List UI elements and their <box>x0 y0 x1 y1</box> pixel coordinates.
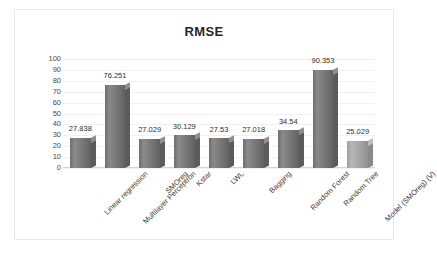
x-axis-tick-label: LWL <box>229 170 245 186</box>
x-axis-tick-label: Linear regression <box>103 170 149 216</box>
bar-value-label: 34.54 <box>270 118 306 126</box>
bar-face <box>174 135 195 168</box>
x-axis-tick-label: Multilayer Perceptron <box>142 170 197 225</box>
y-axis-tick-label: 90 <box>53 66 61 74</box>
bar-value-label: 30.129 <box>166 123 202 131</box>
x-axis: Linear regressionMultilayer PerceptronSM… <box>63 170 375 248</box>
bar-value-label: 27.53 <box>201 126 237 134</box>
y-axis: 1009080706050403020100 <box>35 59 61 168</box>
y-axis-tick-label: 60 <box>53 99 61 107</box>
bar-value-label: 25.029 <box>340 128 376 136</box>
x-axis-tick-label: Bagging <box>268 170 293 195</box>
bar-value-label: 76.251 <box>97 72 133 80</box>
x-axis-tick-label: Kstar <box>195 170 213 188</box>
bar-face <box>70 138 91 168</box>
bar-face <box>139 139 160 168</box>
bar[interactable] <box>209 59 230 168</box>
y-axis-tick-label: 80 <box>53 77 61 85</box>
y-axis-tick-label: 20 <box>53 142 61 150</box>
bar[interactable] <box>278 59 299 168</box>
bar-face <box>105 85 126 168</box>
chart-title: RMSE <box>15 24 393 39</box>
y-axis-tick-label: 0 <box>57 164 61 172</box>
y-axis-tick-label: 30 <box>53 132 61 140</box>
bar-face <box>243 139 264 168</box>
gridline <box>63 168 375 169</box>
bar-value-label: 27.018 <box>236 126 272 134</box>
bar-face <box>278 130 299 168</box>
bar-side-face <box>333 67 338 168</box>
bar-series: 27.83876.25127.02930.12927.5327.01834.54… <box>63 59 375 168</box>
y-axis-tick-label: 50 <box>53 110 61 118</box>
bar-value-label: 90.353 <box>305 57 341 65</box>
bar-face <box>313 70 334 168</box>
y-axis-tick-label: 10 <box>53 153 61 161</box>
bar-value-label: 27.838 <box>62 125 98 133</box>
bar[interactable] <box>347 59 368 168</box>
bar-face <box>209 138 230 168</box>
bar[interactable] <box>174 59 195 168</box>
y-axis-tick-label: 40 <box>53 121 61 129</box>
bar[interactable] <box>70 59 91 168</box>
bar[interactable] <box>313 59 334 168</box>
bar[interactable] <box>243 59 264 168</box>
bar[interactable] <box>139 59 160 168</box>
bar-side-face <box>125 82 130 168</box>
x-axis-tick-label: Model (SMOreg) (V) <box>383 170 436 223</box>
chart-frame: RMSE 1009080706050403020100 27.83876.251… <box>14 9 394 240</box>
y-axis-tick-label: 70 <box>53 88 61 96</box>
plot-area: 27.83876.25127.02930.12927.5327.01834.54… <box>63 59 375 168</box>
y-axis-tick-label: 100 <box>48 55 61 63</box>
bar-value-label: 27.029 <box>132 126 168 134</box>
bar-face <box>347 141 368 168</box>
